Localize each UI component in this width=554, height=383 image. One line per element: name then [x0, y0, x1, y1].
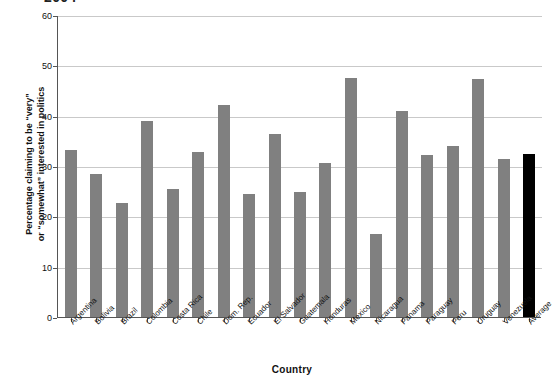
gridline	[58, 167, 542, 168]
bar-peru[interactable]	[447, 146, 459, 317]
y-tick-label: 0	[30, 313, 52, 323]
y-tick-label: 60	[30, 11, 52, 21]
gridline	[58, 117, 542, 118]
bar-uruguay[interactable]	[472, 79, 484, 317]
y-tick-mark	[53, 318, 57, 319]
bar-venezuela[interactable]	[498, 159, 510, 317]
y-tick-label: 40	[30, 112, 52, 122]
x-axis-title: Country	[0, 364, 548, 375]
y-tick-label: 50	[30, 61, 52, 71]
bar-argentina[interactable]	[65, 150, 77, 317]
chart-title: 2004	[44, 0, 77, 5]
y-tick-label: 30	[30, 162, 52, 172]
y-tick-label: 20	[30, 212, 52, 222]
bar-mexico[interactable]	[345, 78, 357, 317]
bar-average[interactable]	[523, 154, 535, 317]
gridline	[58, 66, 542, 67]
y-axis-ticks: 0102030405060	[28, 16, 52, 318]
gridline	[58, 16, 542, 17]
bar-brazil[interactable]	[116, 203, 128, 317]
bar-colombia[interactable]	[141, 121, 153, 317]
y-tick-label: 10	[30, 263, 52, 273]
plot-area	[57, 16, 541, 318]
bar-panama[interactable]	[396, 111, 408, 317]
bar-nicaragua[interactable]	[370, 234, 382, 317]
x-axis-category-labels: ArgentinaBoliviaBrazilColombiaCosta Rica…	[57, 320, 541, 366]
bar-dom-rep[interactable]	[218, 105, 230, 317]
bar-paraguay[interactable]	[421, 155, 433, 317]
bar-el-salvador[interactable]	[269, 134, 281, 317]
